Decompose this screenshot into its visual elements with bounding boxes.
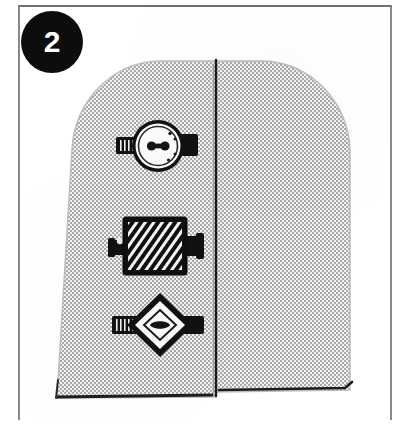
step-badge: 2 (22, 12, 82, 72)
step-badge-label: 2 (44, 27, 61, 57)
scan-frame (18, 5, 392, 420)
illustration-figure: 2 (0, 0, 406, 425)
scan-noise (20, 7, 390, 420)
